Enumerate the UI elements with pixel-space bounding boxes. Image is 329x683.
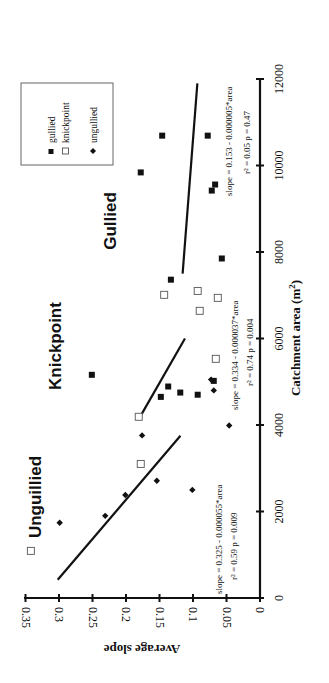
legend-gullied-label: gullied — [47, 116, 57, 143]
legend-knickpoint-label: knickpoint — [61, 102, 71, 143]
marker-gullied — [158, 394, 164, 400]
x-tick-label: 6000 — [272, 327, 286, 351]
marker-ungullied — [226, 422, 232, 428]
rotated-scatter-chart: 020004000600080001000012000 00.050.10.15… — [0, 0, 329, 683]
marker-knickpoint — [137, 460, 144, 467]
marker-ungullied — [56, 520, 62, 526]
stats-ungullied: r² = 0.59 p = 0.009 — [229, 512, 239, 580]
x-tick-label: 0 — [272, 595, 286, 601]
x-axis-title: Catchment area (m2) — [287, 280, 303, 396]
legend-ungullied-label: ungullied — [89, 107, 99, 143]
y-tick-label: 0.35 — [19, 607, 33, 628]
stats-knickpoint: r² = 0.74 p = 0.004 — [245, 318, 255, 386]
equation-gullied: slope = 0.153 - 0.000005*area — [224, 86, 234, 196]
marker-gullied — [219, 255, 225, 261]
marker-ungullied — [211, 387, 217, 393]
x-tick-label: 2000 — [272, 500, 286, 524]
marker-gullied — [168, 277, 174, 283]
marker-knickpoint — [212, 355, 219, 362]
marker-gullied — [212, 182, 218, 188]
marker-gullied — [138, 169, 144, 175]
region-label-knickpoint: Knickpoint — [46, 302, 65, 390]
y-tick-label: 0 — [253, 607, 267, 613]
marker-knickpoint — [194, 287, 201, 294]
fit-line-gullied — [183, 83, 198, 273]
marker-knickpoint — [196, 307, 203, 314]
y-tick-label: 0.2 — [119, 607, 133, 622]
marker-ungullied — [139, 432, 145, 438]
marker-gullied — [89, 372, 95, 378]
marker-gullied — [195, 392, 201, 398]
y-tick-label: 0.05 — [220, 607, 234, 628]
x-tick-label: 12000 — [272, 64, 286, 94]
y-tick-label: 0.25 — [86, 607, 100, 628]
marker-gullied — [209, 188, 215, 194]
area-axis: 020004000600080001000012000 — [256, 64, 286, 601]
x-tick-label: 10000 — [272, 151, 286, 181]
marker-knickpoint — [27, 547, 34, 554]
equation-ungullied: slope = 0.325 - 0.000055*area — [214, 484, 224, 594]
y-tick-label: 0.15 — [153, 607, 167, 628]
marker-gullied — [205, 133, 211, 139]
region-label-gullied: Gullied — [101, 192, 120, 250]
marker-knickpoint — [161, 291, 168, 298]
marker-knickpoint — [135, 413, 142, 420]
marker-knickpoint — [214, 294, 221, 301]
y-tick-label: 0.1 — [186, 607, 200, 622]
y-axis-title: Average slope — [103, 642, 180, 657]
marker-gullied — [177, 390, 183, 396]
marker-ungullied — [189, 487, 195, 493]
x-tick-label: 8000 — [272, 240, 286, 264]
region-label-ungullied: Unguillied — [26, 456, 45, 538]
legend-gullied-marker — [49, 149, 54, 154]
stats-gullied: r² = 0.05 p = 0.47 — [242, 110, 252, 174]
marker-gullied — [159, 133, 165, 139]
y-tick-label: 0.3 — [52, 607, 66, 622]
equation-knickpoint: slope = 0.334 - 0.000037*area — [230, 300, 240, 410]
fit-line-ungullied — [58, 436, 181, 580]
marker-ungullied — [154, 478, 160, 484]
slope-axis: 00.050.10.150.20.250.30.35 — [19, 594, 268, 628]
marker-gullied — [165, 384, 171, 390]
legend: gullied knickpoint ungullied — [21, 83, 113, 165]
legend-knickpoint-marker — [63, 148, 69, 154]
x-tick-label: 4000 — [272, 413, 286, 437]
fit-line-knickpoint — [140, 339, 185, 417]
marker-ungullied — [102, 513, 108, 519]
